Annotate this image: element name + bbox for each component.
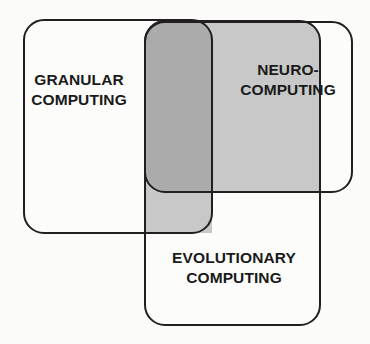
venn-diagram-canvas xyxy=(0,0,370,344)
venn-diagram: GRANULAR COMPUTING NEURO- COMPUTING EVOL… xyxy=(0,0,370,344)
